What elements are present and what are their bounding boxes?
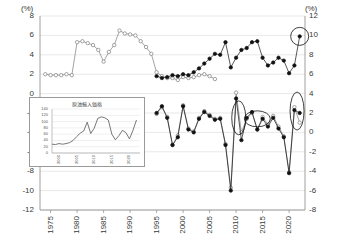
data-point-lower-filled-circles [192, 131, 195, 134]
data-point-upper-filled-circles [181, 73, 184, 76]
data-point-lower-open-circles [298, 121, 301, 124]
data-point-upper-open-circles [134, 34, 137, 37]
data-point-upper-open-circles [81, 40, 84, 43]
data-point-lower-filled-circles [203, 110, 206, 113]
data-point-upper-filled-circles [166, 75, 169, 78]
crude-oil-price-and-growth-chart: (%) (%) 86420-2-4-6-8-10-12 121086420-2-… [0, 0, 337, 248]
data-point-upper-open-circles [123, 32, 126, 35]
data-point-upper-open-circles [118, 29, 121, 32]
data-point-upper-filled-circles [261, 56, 264, 59]
highlight-2021-2022 [290, 92, 304, 130]
data-point-upper-filled-circles [250, 40, 253, 43]
data-point-upper-filled-circles [213, 52, 216, 55]
series-line-lower-open-circles [157, 93, 300, 188]
data-point-lower-filled-circles [282, 136, 285, 139]
data-point-lower-open-circles [234, 91, 237, 94]
data-point-upper-filled-circles [240, 48, 243, 51]
data-point-upper-open-circles [208, 74, 211, 77]
data-point-lower-filled-circles [219, 117, 222, 120]
data-point-upper-filled-circles [219, 53, 222, 56]
data-point-lower-filled-circles [197, 117, 200, 120]
data-point-upper-open-circles [197, 73, 200, 76]
data-point-lower-filled-circles [266, 125, 269, 128]
data-point-lower-filled-circles [277, 127, 280, 130]
data-point-upper-filled-circles [229, 66, 232, 69]
data-point-upper-open-circles [91, 43, 94, 46]
data-point-upper-open-circles [113, 43, 116, 46]
data-point-lower-filled-circles [256, 128, 259, 131]
data-point-upper-open-circles [70, 73, 73, 76]
data-point-lower-filled-circles [166, 116, 169, 119]
data-point-upper-filled-circles [176, 74, 179, 77]
data-point-upper-open-circles [144, 45, 147, 48]
data-point-lower-filled-circles [155, 111, 158, 114]
data-point-lower-filled-circles [181, 105, 184, 108]
data-point-upper-filled-circles [155, 74, 158, 77]
data-point-upper-open-circles [176, 78, 179, 81]
data-point-upper-open-circles [49, 73, 52, 76]
data-point-upper-filled-circles [245, 46, 248, 49]
data-point-lower-filled-circles [160, 105, 163, 108]
data-point-upper-filled-circles [282, 59, 285, 62]
data-point-upper-open-circles [203, 73, 206, 76]
data-point-upper-filled-circles [203, 62, 206, 65]
data-point-upper-open-circles [128, 33, 131, 36]
data-point-upper-open-circles [150, 52, 153, 55]
inset-chart-crude-oil-import-price: 原油輸入価格 140120100806040200 20002005201020… [29, 97, 145, 167]
data-point-upper-open-circles [213, 77, 216, 80]
data-point-upper-open-circles [139, 40, 142, 43]
data-point-lower-filled-circles [171, 143, 174, 146]
data-point-lower-filled-circles [298, 111, 301, 114]
data-point-lower-filled-circles [272, 116, 275, 119]
data-point-upper-open-circles [65, 73, 68, 76]
data-point-upper-filled-circles [293, 64, 296, 67]
data-point-upper-filled-circles [208, 57, 211, 60]
data-point-upper-open-circles [75, 40, 78, 43]
data-point-upper-open-circles [44, 73, 47, 76]
data-point-upper-filled-circles [224, 40, 227, 43]
data-point-lower-filled-circles [229, 189, 232, 192]
data-point-lower-filled-circles [176, 136, 179, 139]
data-point-upper-filled-circles [272, 61, 275, 64]
data-point-lower-filled-circles [240, 138, 243, 141]
data-point-upper-open-circles [102, 60, 105, 63]
data-point-upper-filled-circles [192, 71, 195, 74]
data-point-upper-open-circles [192, 75, 195, 78]
series-line-upper-open-circles [45, 31, 215, 80]
data-point-upper-filled-circles [298, 35, 301, 38]
data-point-upper-filled-circles [197, 67, 200, 70]
data-point-lower-filled-circles [293, 108, 296, 111]
data-point-lower-filled-circles [287, 171, 290, 174]
data-point-lower-filled-circles [213, 118, 216, 121]
series-line-lower-filled-circles [157, 98, 300, 190]
inset-plot-area [30, 98, 144, 166]
data-point-upper-filled-circles [266, 64, 269, 67]
data-point-upper-filled-circles [277, 56, 280, 59]
data-point-upper-open-circles [97, 48, 100, 51]
data-point-upper-filled-circles [256, 40, 259, 43]
data-point-lower-filled-circles [224, 143, 227, 146]
data-point-lower-filled-circles [187, 128, 190, 131]
data-point-upper-filled-circles [234, 56, 237, 59]
data-point-upper-filled-circles [171, 73, 174, 76]
data-point-upper-open-circles [54, 73, 57, 76]
data-point-upper-filled-circles [187, 73, 190, 76]
data-point-upper-filled-circles [160, 76, 163, 79]
data-point-lower-filled-circles [208, 114, 211, 117]
data-point-upper-open-circles [107, 50, 110, 53]
data-point-lower-filled-circles [234, 97, 237, 100]
data-point-upper-open-circles [60, 73, 63, 76]
data-point-upper-open-circles [86, 41, 89, 44]
data-point-lower-filled-circles [261, 117, 264, 120]
data-point-upper-filled-circles [287, 72, 290, 75]
data-point-upper-open-circles [155, 71, 158, 74]
